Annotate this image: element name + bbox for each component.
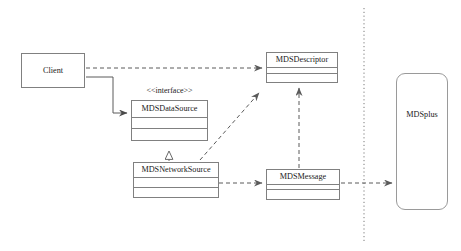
node-mdsnetworksource[interactable]: MDSNetworkSource [133,162,219,198]
node-mdsplus-label: MDSplus [397,110,447,119]
node-mdsdatasource-operations [132,129,207,140]
mdsdatasource-stereotype: <<interface>> [131,87,208,95]
node-mdsdatasource-label: MDSDataSource [132,101,207,118]
node-mdsmessage-operations [267,190,339,199]
node-mdsmessage[interactable]: MDSMessage [266,169,340,200]
node-mdsdatasource-attributes [132,118,207,129]
node-mdsnetworksource-operations [134,188,218,197]
node-mdsdescriptor-label: MDSDescriptor [267,53,337,68]
node-mdsdatasource[interactable]: MDSDataSource [131,100,208,141]
node-mdsdescriptor[interactable]: MDSDescriptor [266,52,338,83]
node-mdsdescriptor-operations [267,74,337,82]
node-client-label: Client [43,66,63,75]
node-client[interactable]: Client [21,53,85,88]
node-mdsnetworksource-attributes [134,178,218,188]
node-mdsplus[interactable]: MDSplus [396,73,448,210]
node-mdsnetworksource-label: MDSNetworkSource [134,163,218,178]
node-mdsmessage-label: MDSMessage [267,170,339,185]
class-diagram-canvas: Client <<interface>> MDSDataSource MDSNe… [0,0,461,251]
edge-mdsnetworksource-to-mdsdescriptor [200,93,259,160]
edge-client-to-mdsdatasource [86,77,127,113]
edge-layer [0,0,461,251]
